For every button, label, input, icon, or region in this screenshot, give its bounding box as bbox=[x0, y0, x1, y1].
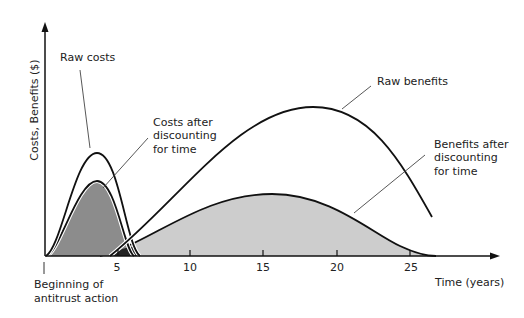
annotation-costs-discounted-1: Costs after bbox=[153, 116, 213, 129]
tick-label-25: 25 bbox=[404, 261, 418, 274]
cost-benefit-chart: 5 10 15 20 25 Costs, Benefits ($) Time (… bbox=[0, 0, 524, 318]
tick-label-5: 5 bbox=[114, 261, 121, 274]
origin-label-line2: antitrust action bbox=[34, 292, 118, 305]
annotation-costs-discounted-3: for time bbox=[153, 143, 197, 156]
annotation-benefits-discounted-2: discounting bbox=[434, 151, 498, 164]
leader-raw-costs bbox=[80, 70, 90, 148]
annotation-costs-discounted-2: discounting bbox=[153, 129, 217, 142]
annotation-benefits-discounted-3: for time bbox=[434, 165, 478, 178]
y-axis-arrow bbox=[42, 22, 49, 32]
tick-label-15: 15 bbox=[256, 261, 270, 274]
annotation-benefits-discounted-1: Benefits after bbox=[434, 138, 509, 151]
tick-label-10: 10 bbox=[183, 261, 197, 274]
tick-label-20: 20 bbox=[330, 261, 344, 274]
x-axis-arrow bbox=[490, 253, 500, 260]
y-axis-label: Costs, Benefits ($) bbox=[28, 59, 41, 160]
benefits-discounted-area bbox=[100, 194, 436, 256]
origin-label-line1: Beginning of bbox=[34, 278, 105, 291]
annotation-raw-costs: Raw costs bbox=[60, 51, 115, 64]
leader-raw-benefits bbox=[342, 86, 371, 109]
annotation-raw-benefits: Raw benefits bbox=[377, 75, 448, 88]
x-axis-label: Time (years) bbox=[434, 276, 504, 289]
